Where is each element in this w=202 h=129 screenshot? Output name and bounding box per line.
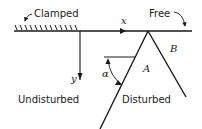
clamped-leader-arrow <box>25 14 32 21</box>
region-b-label: B <box>169 43 177 54</box>
free-label: Free <box>149 8 170 19</box>
clamped-hatching <box>15 25 77 30</box>
x-axis-arrow <box>120 28 126 34</box>
clamped-label: Clamped <box>34 8 78 19</box>
angle-arc-arrow-top <box>106 58 111 64</box>
front-line-right <box>148 31 186 97</box>
y-axis-arrow <box>78 73 83 80</box>
x-axis-label: x <box>121 15 127 26</box>
y-axis-label: y <box>70 73 77 84</box>
region-a-label: A <box>142 63 150 74</box>
free-leader-arrow <box>174 12 185 26</box>
angle-arc-arrow-bottom <box>115 80 122 85</box>
clamped-free-wave-diagram: Clamped Free x y α A B Undisturbed Distu… <box>0 0 202 129</box>
undisturbed-label: Undisturbed <box>18 94 79 105</box>
angle-alpha-label: α <box>102 68 109 79</box>
front-line-left <box>100 31 148 129</box>
disturbed-label: Disturbed <box>122 94 171 105</box>
